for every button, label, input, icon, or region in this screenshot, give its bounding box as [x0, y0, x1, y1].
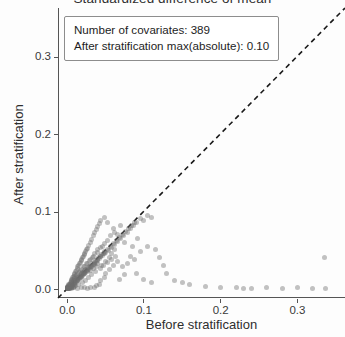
y-tick-mark: [54, 134, 58, 135]
x-tick-mark: [143, 299, 144, 303]
y-tick-0.3: 0.3: [35, 50, 58, 62]
y-tick-0.2: 0.2: [35, 128, 58, 140]
scatter-plot-figure: Standardized difference of mean 0.00.10.…: [0, 0, 345, 337]
x-tick-label: 0.3: [289, 304, 305, 316]
x-tick-mark: [67, 299, 68, 303]
x-tick-0.2: 0.2: [213, 299, 229, 316]
x-axis-title: Before stratification: [58, 317, 345, 332]
y-tick-mark: [54, 212, 58, 213]
y-axis-line: [58, 8, 59, 298]
x-tick-mark: [297, 299, 298, 303]
y-axis-title: After stratification: [11, 55, 26, 255]
x-tick-0.0: 0.0: [59, 299, 75, 316]
y-tick-mark: [54, 57, 58, 58]
annotation-line-covariates: Number of covariates: 389: [74, 22, 269, 38]
annotation-box: Number of covariates: 389 After stratifi…: [64, 16, 279, 61]
y-tick-label: 0.2: [35, 128, 51, 140]
y-axis-ticks: 0.00.10.20.3: [0, 0, 58, 337]
annotation-line-max-absolute: After stratification max(absolute): 0.10: [74, 38, 269, 54]
y-tick-label: 0.3: [35, 50, 51, 62]
x-tick-0.3: 0.3: [289, 299, 305, 316]
x-tick-0.1: 0.1: [136, 299, 152, 316]
y-tick-0.1: 0.1: [35, 205, 58, 217]
y-tick-label: 0.1: [35, 205, 51, 217]
y-tick-0.0: 0.0: [35, 283, 58, 295]
x-tick-label: 0.0: [59, 304, 75, 316]
y-tick-label: 0.0: [35, 283, 51, 295]
y-tick-mark: [54, 289, 58, 290]
x-tick-mark: [220, 299, 221, 303]
x-tick-label: 0.2: [213, 304, 229, 316]
x-tick-label: 0.1: [136, 304, 152, 316]
